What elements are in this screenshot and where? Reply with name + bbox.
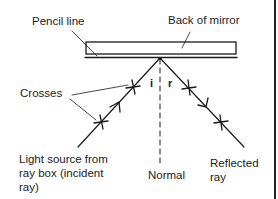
reflected-ray	[160, 58, 244, 147]
reflected-ray-label: Reflected ray	[210, 156, 259, 184]
incidence-point	[159, 57, 162, 60]
crosses-leader	[70, 99, 96, 120]
pencil-line-leader	[72, 31, 97, 56]
mirror	[86, 42, 236, 54]
incident-ray-label: Light source from ray box (incident ray)	[19, 152, 108, 194]
angle-of-incidence-label: i	[150, 77, 153, 89]
pencil-line-label: Pencil line	[32, 14, 84, 28]
back-of-mirror-label: Back of mirror	[168, 13, 240, 27]
frame-border	[274, 0, 276, 199]
crosses-label: Crosses	[20, 86, 62, 100]
back-of-mirror-leader	[182, 32, 190, 48]
crosses-leader	[72, 85, 128, 95]
normal-label: Normal	[148, 168, 185, 182]
cross-icon	[182, 80, 196, 95]
angle-of-reflection-label: r	[168, 77, 172, 89]
